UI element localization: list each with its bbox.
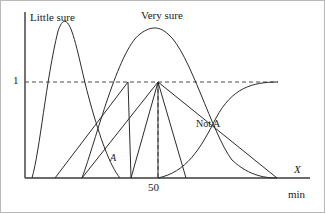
label-very-sure: Very sure xyxy=(141,9,183,21)
ray-right-descending xyxy=(158,82,277,178)
label-a: A xyxy=(110,152,116,163)
label-not-a: Not A xyxy=(196,118,220,129)
x-axis-tick-label-fifty: 50 xyxy=(148,181,159,193)
x-axis-title: X xyxy=(294,163,301,175)
label-little-sure: Little sure xyxy=(30,11,75,23)
curve-little-sure xyxy=(32,21,120,178)
fuzzy-membership-plot xyxy=(0,0,326,214)
y-axis-tick-label-one: 1 xyxy=(13,74,19,86)
x-axis-unit-label: min xyxy=(288,188,305,200)
triangle-left-wide xyxy=(82,82,158,178)
figure-screenshot: Little sure Very sure Not A A 1 50 X min xyxy=(0,0,326,214)
